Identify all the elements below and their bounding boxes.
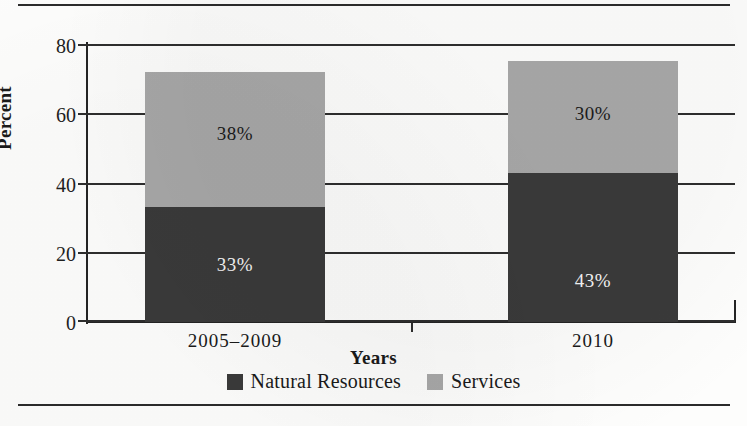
y-tick-label-60: 60 — [40, 105, 76, 125]
bar-segment-services-2005-2009[interactable]: 38% — [145, 72, 325, 208]
legend-item-services[interactable]: Services — [427, 370, 520, 393]
y-tick-label-40: 40 — [40, 175, 76, 195]
bar-2010[interactable]: 30% 43% — [508, 61, 678, 322]
legend-swatch-services — [427, 374, 443, 390]
bar-2005-2009[interactable]: 38% 33% — [145, 72, 325, 322]
legend-label-services: Services — [451, 370, 520, 393]
x-axis-center-tick — [411, 323, 413, 332]
bar-label-natural-resources-2005-2009: 33% — [145, 255, 325, 274]
page-rule-bottom — [18, 404, 730, 406]
y-tick-label-0: 0 — [40, 313, 76, 333]
bar-segment-natural-resources-2010[interactable]: 43% — [508, 173, 678, 322]
bar-label-services-2010: 30% — [508, 104, 678, 123]
legend-item-natural-resources[interactable]: Natural Resources — [227, 370, 402, 393]
page-rule-top — [18, 4, 730, 6]
bar-segment-natural-resources-2005-2009[interactable]: 33% — [145, 207, 325, 322]
bar-label-natural-resources-2010: 43% — [508, 271, 678, 290]
chart-figure: Percent 80 60 40 20 0 38% 33% 30% — [0, 0, 747, 426]
gridline-80 — [87, 44, 735, 46]
y-tick-mark-80 — [78, 44, 87, 46]
y-tick-label-20: 20 — [40, 244, 76, 264]
bar-segment-services-2010[interactable]: 30% — [508, 61, 678, 172]
x-axis-title: Years — [0, 347, 747, 369]
chart-legend: Natural Resources Services — [0, 370, 747, 393]
y-tick-mark-20 — [78, 252, 87, 254]
y-axis-title: Percent — [0, 86, 16, 150]
legend-swatch-natural-resources — [227, 374, 243, 390]
plot-area: 38% 33% 30% 43% — [87, 44, 735, 322]
bar-label-services-2005-2009: 38% — [145, 124, 325, 143]
y-tick-mark-60 — [78, 113, 87, 115]
legend-label-natural-resources: Natural Resources — [251, 370, 402, 393]
y-tick-mark-0 — [78, 320, 87, 322]
y-tick-mark-40 — [78, 183, 87, 185]
y-tick-label-80: 80 — [40, 36, 76, 56]
